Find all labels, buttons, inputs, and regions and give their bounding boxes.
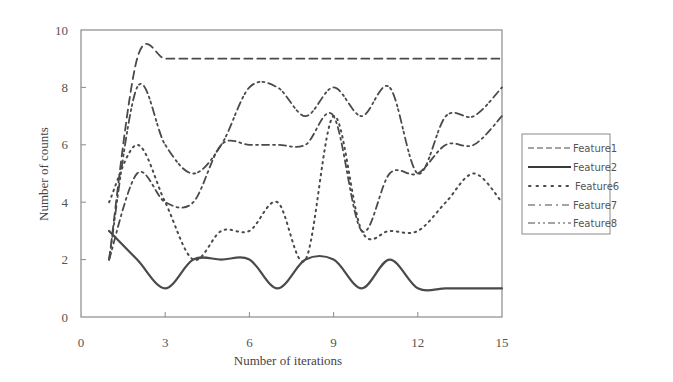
x-tick-label: 15 [496, 335, 509, 350]
y-axis-labels: 0 2 4 6 8 10 [55, 23, 69, 325]
series-feature7-line [109, 113, 502, 260]
y-tick-label: 4 [62, 195, 69, 210]
legend-label: Feature1 [573, 143, 617, 154]
y-tick-label: 8 [62, 80, 69, 95]
legend-label: Feature6 [575, 181, 619, 192]
x-tick-label: 0 [78, 335, 85, 350]
y-tick-label: 6 [62, 137, 69, 152]
x-tick-label: 3 [162, 335, 169, 350]
y-axis-ticks [81, 87, 86, 259]
series-feature8-line [109, 82, 502, 260]
legend: Feature1 Feature2 Feature6 Feature7 Feat… [522, 134, 619, 234]
x-axis-ticks [165, 312, 418, 317]
x-axis-title: Number of iterations [234, 353, 342, 368]
x-axis-labels: 0 3 6 9 12 15 [78, 335, 509, 350]
x-tick-label: 12 [411, 335, 424, 350]
y-axis-title: Number of counts [36, 127, 51, 221]
series-lines [109, 44, 502, 291]
legend-label: Feature7 [573, 200, 617, 211]
series-feature2-line [109, 231, 502, 291]
y-tick-label: 10 [55, 23, 68, 38]
series-feature6-line [109, 116, 502, 262]
legend-label: Feature8 [573, 218, 617, 229]
series-feature1-line [109, 44, 502, 260]
line-chart: 0 2 4 6 8 10 0 3 6 9 12 15 Number of ite… [0, 0, 673, 382]
x-tick-label: 9 [330, 335, 337, 350]
y-tick-label: 0 [62, 310, 69, 325]
y-tick-label: 2 [62, 252, 69, 267]
x-tick-label: 6 [246, 335, 253, 350]
legend-label: Feature2 [573, 162, 617, 173]
